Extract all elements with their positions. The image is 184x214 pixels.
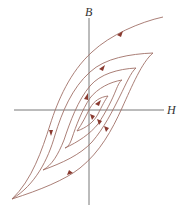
second-loop-upper-branch (43, 68, 136, 170)
arrow-icon (104, 126, 109, 132)
outer-loop-lower-branch (12, 53, 153, 199)
b-axis-label: B (85, 5, 93, 19)
h-axis-label: H (166, 103, 177, 117)
hysteresis-diagram: B H (0, 0, 184, 214)
outer-loop-upper-branch (12, 53, 153, 199)
arrow-icon (99, 65, 105, 71)
arrow-icon (67, 170, 73, 175)
arrow-icon (49, 130, 53, 136)
initial-magnetization-curve (12, 17, 163, 199)
